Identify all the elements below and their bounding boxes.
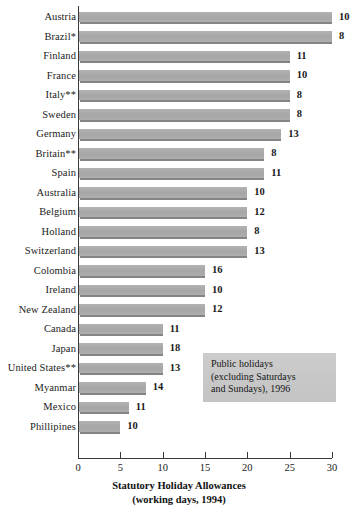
bar <box>78 51 290 64</box>
category-label-colombia: Colombia <box>2 264 76 277</box>
bar-value-label: 13 <box>254 244 265 257</box>
bar-shadow <box>80 373 163 375</box>
category-label-united-states: United States** <box>2 361 76 374</box>
x-axis-tick-label: 20 <box>242 461 253 474</box>
x-axis-tick <box>290 452 291 458</box>
statutory-holiday-allowances-chart: Austria10Brazil*8Finland11France10Italy*… <box>0 0 358 511</box>
bar-value-label: 8 <box>339 29 344 42</box>
axis-title: Statutory Holiday Allowances (working da… <box>0 479 358 506</box>
bar <box>78 343 163 356</box>
bar-row: New Zealand12 <box>0 303 358 323</box>
bar <box>78 70 290 83</box>
bar-value-label: 16 <box>212 263 223 276</box>
bar-fill <box>78 70 290 81</box>
bar-fill <box>78 265 205 276</box>
x-axis-tick <box>120 452 121 458</box>
bar-fill <box>78 421 120 432</box>
bar-shadow <box>80 22 332 24</box>
bar-value-label: 11 <box>271 166 281 179</box>
bar-shadow <box>80 334 163 336</box>
annotation-line-3: and Sundays), 1996 <box>211 383 329 396</box>
category-label-mexico: Mexico <box>2 400 76 413</box>
bar-row: Colombia16 <box>0 264 358 284</box>
x-axis-tick-label: 25 <box>284 461 295 474</box>
bar <box>78 285 205 298</box>
x-axis-tick <box>78 452 79 458</box>
bar-row: France10 <box>0 69 358 89</box>
category-label-sweden: Sweden <box>2 108 76 121</box>
bar-value-label: 8 <box>297 107 302 120</box>
x-axis-tick <box>163 452 164 458</box>
bar-shadow <box>80 354 163 356</box>
bar-fill <box>78 168 264 179</box>
bar-value-label: 10 <box>339 10 350 23</box>
bar-value-label: 12 <box>212 302 223 315</box>
bar <box>78 402 129 415</box>
bar-fill <box>78 207 247 218</box>
category-label-australia: Australia <box>2 186 76 199</box>
bar-row: Ireland10 <box>0 283 358 303</box>
bar-value-label: 8 <box>297 88 302 101</box>
bar-shadow <box>80 61 290 63</box>
annotation-line-2: (excluding Saturdays <box>211 371 329 384</box>
bar-row: Spain11 <box>0 166 358 186</box>
bar <box>78 148 264 161</box>
bar-fill <box>78 12 332 23</box>
bar <box>78 382 146 395</box>
bar-shadow <box>80 217 247 219</box>
bar-value-label: 10 <box>127 419 138 432</box>
axis-title-line2: (working days, 1994) <box>0 493 358 507</box>
category-label-japan: Japan <box>2 342 76 355</box>
bar-shadow <box>80 237 247 239</box>
bar-value-label: 11 <box>297 49 307 62</box>
category-label-phillipines: Phillipines <box>2 420 76 433</box>
bar-fill <box>78 363 163 374</box>
bar-fill <box>78 129 281 140</box>
x-axis-tick-label: 10 <box>157 461 168 474</box>
bar-row: Brazil*8 <box>0 30 358 50</box>
bar-row: Finland11 <box>0 49 358 69</box>
bar-shadow <box>80 315 205 317</box>
bar <box>78 168 264 181</box>
category-label-spain: Spain <box>2 166 76 179</box>
x-axis-tick-label: 0 <box>75 461 80 474</box>
bar-fill <box>78 148 264 159</box>
bar-fill <box>78 246 247 257</box>
bar <box>78 226 247 239</box>
bar-row: Holland8 <box>0 225 358 245</box>
bar-value-label: 8 <box>271 146 276 159</box>
bar <box>78 207 247 220</box>
bar <box>78 109 290 122</box>
category-label-britain: Britain** <box>2 147 76 160</box>
bar-shadow <box>80 42 332 44</box>
bar-fill <box>78 402 129 413</box>
bar-row: Belgium12 <box>0 205 358 225</box>
category-label-new-zealand: New Zealand <box>2 303 76 316</box>
bar-row: Australia10 <box>0 186 358 206</box>
bar-row: Italy**8 <box>0 88 358 108</box>
bar-value-label: 10 <box>254 185 265 198</box>
bar <box>78 363 163 376</box>
bar-shadow <box>80 159 264 161</box>
category-label-belgium: Belgium <box>2 205 76 218</box>
x-axis-tick <box>205 452 206 458</box>
bar-shadow <box>80 100 290 102</box>
bar-shadow <box>80 256 247 258</box>
bar-shadow <box>80 412 129 414</box>
bar-value-label: 13 <box>170 361 181 374</box>
bar-value-label: 10 <box>212 283 223 296</box>
x-axis-tick-label: 30 <box>327 461 338 474</box>
bar-row: Switzerland13 <box>0 244 358 264</box>
bar-shadow <box>80 120 290 122</box>
category-label-austria: Austria <box>2 10 76 23</box>
bar-shadow <box>80 81 290 83</box>
x-axis-line <box>78 458 332 459</box>
bar <box>78 31 332 44</box>
category-label-finland: Finland <box>2 49 76 62</box>
bar <box>78 129 281 142</box>
category-label-ireland: Ireland <box>2 283 76 296</box>
category-label-holland: Holland <box>2 225 76 238</box>
bar <box>78 12 332 25</box>
bar-value-label: 14 <box>153 380 164 393</box>
bar-row: Phillipines10 <box>0 420 358 440</box>
